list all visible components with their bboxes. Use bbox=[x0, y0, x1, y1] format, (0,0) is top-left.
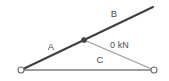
right-pin-support bbox=[151, 67, 157, 73]
member-upper-chord-b bbox=[84, 7, 153, 40]
label-force-value: 0 kN bbox=[110, 40, 129, 50]
truss-force-diagram: B A C 0 kN bbox=[0, 0, 169, 81]
truss-diagram-canvas: B A C 0 kN bbox=[0, 0, 169, 81]
left-pin-support bbox=[18, 67, 24, 73]
joint-node bbox=[81, 37, 86, 42]
label-member-c: C bbox=[97, 54, 104, 65]
label-member-a: A bbox=[48, 41, 55, 52]
label-member-b: B bbox=[111, 8, 117, 19]
